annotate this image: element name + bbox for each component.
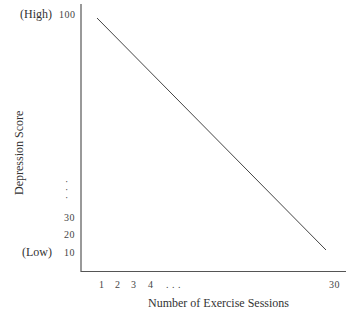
data-line — [97, 18, 326, 250]
y-tick-20: 20 — [64, 229, 75, 240]
x-tick-1: 1 — [99, 279, 105, 290]
y-low-label: (Low) — [22, 245, 52, 260]
x-tick-ellipsis: . . . — [166, 279, 181, 290]
y-high-label: (High) — [20, 7, 52, 22]
x-tick-3: 3 — [131, 279, 137, 290]
x-tick-30: 30 — [329, 279, 340, 290]
y-tick-ellipsis-3: · — [65, 194, 69, 202]
y-tick-100: 100 — [59, 9, 76, 20]
y-tick-10: 10 — [64, 247, 75, 258]
y-axis-title: Depression Score — [12, 111, 27, 195]
x-tick-4: 4 — [148, 279, 154, 290]
y-tick-30: 30 — [64, 212, 75, 223]
x-axis-title: Number of Exercise Sessions — [148, 296, 289, 311]
x-tick-2: 2 — [115, 279, 121, 290]
